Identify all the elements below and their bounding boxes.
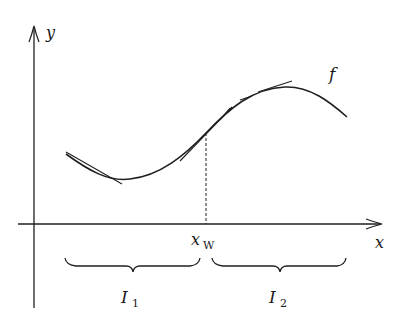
interval-brace-1 (65, 258, 200, 272)
inflection-point-diagram: y x f x W I 1 I 2 (0, 0, 405, 326)
svg-text:1: 1 (132, 297, 139, 310)
inflection-point-label: x W (191, 230, 215, 252)
function-label: f (327, 64, 338, 84)
svg-text:W: W (203, 239, 215, 252)
svg-text:I: I (268, 287, 276, 307)
svg-text:I: I (120, 287, 128, 307)
interval-label-1: I 1 (120, 287, 139, 310)
y-axis-label: y (45, 23, 56, 42)
x-axis-label: x (375, 233, 384, 252)
tangent-lines (66, 81, 292, 184)
tangent-line-inflection-upper (220, 108, 230, 120)
tangent-line-left (66, 152, 122, 184)
interval-label-2: I 2 (268, 287, 287, 310)
svg-text:2: 2 (280, 297, 287, 310)
interval-brace-2 (212, 258, 346, 272)
x-axis (18, 219, 382, 229)
y-axis (29, 26, 39, 308)
svg-text:x: x (191, 230, 200, 249)
